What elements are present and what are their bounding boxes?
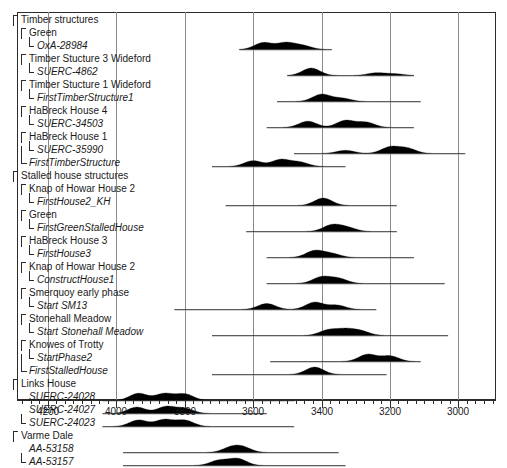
row-label: FirstStalledHouse	[29, 364, 108, 377]
axis-tick	[219, 401, 220, 404]
row-label: Start Stonehall Meadow	[37, 325, 143, 338]
axis-tick	[407, 401, 408, 404]
row-label: FirstGreenStalledHouse	[37, 221, 144, 234]
axis-tick	[484, 401, 485, 404]
axis-tick	[193, 401, 194, 404]
hierarchy-bracket	[21, 28, 26, 39]
hierarchy-bracket	[21, 414, 26, 424]
row-label: SUERC-24023	[29, 416, 95, 429]
table-row: HaBreck House 4	[0, 104, 507, 117]
table-row: FirstHouse3	[0, 247, 507, 260]
axis-tick	[356, 401, 357, 404]
table-row: FirstHouse2_KH	[0, 195, 507, 208]
axis-tick	[450, 401, 451, 404]
table-row: Knap of Howar House 2	[0, 260, 507, 273]
hierarchy-bracket	[21, 106, 26, 117]
axis-tick	[304, 401, 305, 404]
table-row: Stalled house structures	[0, 169, 507, 182]
row-label: Stonehall Meadow	[29, 312, 111, 325]
table-row: SUERC-4862	[0, 65, 507, 78]
hierarchy-bracket	[29, 63, 34, 73]
axis-tick	[433, 401, 434, 404]
axis-tick	[398, 401, 399, 404]
table-row: Timber structures	[0, 13, 507, 26]
row-label: Smerquoy early phase	[29, 286, 129, 299]
table-row: FirstStalledHouse	[0, 364, 507, 377]
hierarchy-bracket	[21, 262, 26, 273]
axis-tick	[475, 401, 476, 404]
row-label: Knowes of Trotty	[29, 338, 103, 351]
table-row: SUERC-35990	[0, 143, 507, 156]
table-row: Start SM13	[0, 299, 507, 312]
probability-distribution	[0, 442, 507, 455]
hierarchy-bracket	[21, 132, 26, 143]
axis-tick	[210, 401, 211, 404]
row-label: SUERC-4862	[37, 65, 98, 78]
x-tick-label-3600: 3600	[242, 406, 264, 417]
row-label: HaBreck House 4	[29, 104, 107, 117]
row-label: Knap of Howar House 2	[29, 182, 135, 195]
hierarchy-bracket	[21, 184, 26, 195]
axis-tick	[313, 401, 314, 404]
hierarchy-bracket	[29, 271, 34, 281]
table-row: AA-53157	[0, 455, 507, 468]
x-tick-label-4200: 4200	[37, 406, 59, 417]
table-row: Start Stonehall Meadow	[0, 325, 507, 338]
table-row: Links House	[0, 377, 507, 390]
row-label: Timber structures	[21, 13, 98, 26]
hierarchy-bracket	[21, 314, 26, 325]
axis-tick	[125, 401, 126, 404]
table-row: Knap of Howar House 2	[0, 182, 507, 195]
hierarchy-bracket	[21, 210, 26, 221]
row-label: Start SM13	[37, 299, 87, 312]
probability-distribution	[0, 455, 507, 468]
hierarchy-bracket	[29, 245, 34, 255]
table-row: Stonehall Meadow	[0, 312, 507, 325]
row-label: SUERC-34503	[37, 117, 103, 130]
table-row: OxA-28984	[0, 39, 507, 52]
axis-tick	[22, 401, 23, 404]
axis-tick	[202, 401, 203, 404]
hierarchy-bracket	[29, 89, 34, 99]
hierarchy-bracket	[21, 146, 27, 164]
row-label: FirstTimberStructure	[29, 156, 120, 169]
table-row: FirstTimberStructure	[0, 156, 507, 169]
hierarchy-bracket	[29, 219, 34, 229]
row-label: SUERC-35990	[37, 143, 103, 156]
table-row: StartPhase2	[0, 351, 507, 364]
axis-tick	[159, 401, 160, 404]
table-row: SUERC-24023	[0, 416, 507, 429]
axis-tick	[416, 401, 417, 404]
axis-tick	[373, 401, 374, 404]
axis-tick	[150, 401, 151, 404]
hierarchy-bracket	[13, 171, 18, 182]
hierarchy-bracket	[13, 431, 18, 442]
x-tick-label-3200: 3200	[379, 406, 401, 417]
table-row: FirstGreenStalledHouse	[0, 221, 507, 234]
table-row: SUERC-34503	[0, 117, 507, 130]
hierarchy-bracket	[13, 15, 18, 26]
axis-tick	[142, 401, 143, 404]
axis-tick	[82, 401, 83, 404]
axis-tick	[91, 401, 92, 404]
hierarchy-bracket	[21, 453, 26, 463]
x-tick-label-3800: 3800	[174, 406, 196, 417]
row-label: HaBreck House 3	[29, 234, 107, 247]
table-row: AA-53158	[0, 442, 507, 455]
row-label: FirstTimberStructure1	[37, 91, 134, 104]
hierarchy-bracket	[29, 193, 34, 203]
axis-tick	[441, 401, 442, 404]
axis-tick	[168, 401, 169, 404]
axis-tick	[227, 401, 228, 404]
table-row: ConstructHouse1	[0, 273, 507, 286]
axis-tick	[364, 401, 365, 404]
row-label: StartPhase2	[37, 351, 92, 364]
axis-tick	[236, 401, 237, 404]
table-row: Timber Stucture 3 Wideford	[0, 52, 507, 65]
hierarchy-bracket	[29, 323, 34, 333]
table-row: HaBreck House 1	[0, 130, 507, 143]
row-label: FirstHouse3	[37, 247, 91, 260]
hierarchy-bracket	[21, 354, 27, 372]
row-label: HaBreck House 1	[29, 130, 107, 143]
